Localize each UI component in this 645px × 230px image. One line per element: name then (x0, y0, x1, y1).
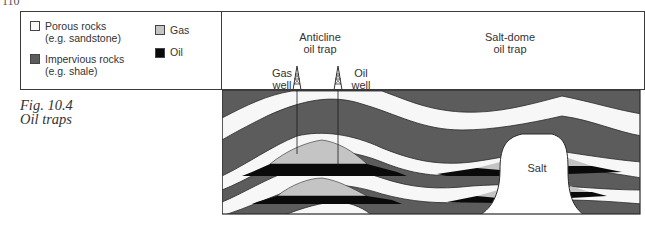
legend-label-impervious: Impervious rocks (e.g. shale) (45, 53, 124, 77)
legend-swatch-oil (155, 48, 165, 58)
oil-well-label: Oil well (343, 67, 379, 91)
oil-well-derrick-icon (333, 66, 343, 90)
gas-well-derrick-icon (292, 66, 302, 90)
anticline-label: Anticline oil trap (280, 31, 360, 55)
legend-swatch-porous (30, 21, 40, 31)
figure-title: Oil traps (20, 112, 73, 126)
saltdome-label: Salt-dome oil trap (465, 31, 555, 55)
legend-swatch-impervious (30, 54, 40, 64)
legend-label-porous: Porous rocks (e.g. sandstone) (45, 20, 121, 44)
salt-label: Salt (517, 162, 557, 174)
page-number: 110 (2, 0, 20, 9)
legend: Porous rocks (e.g. sandstone) Impervious… (20, 11, 222, 90)
legend-label-gas: Gas (170, 24, 189, 36)
figure-caption: Fig. 10.4 Oil traps (20, 98, 73, 126)
geological-cross-section (222, 90, 642, 216)
legend-label-oil: Oil (170, 46, 183, 58)
legend-swatch-gas (155, 25, 165, 35)
figure-number: Fig. 10.4 (20, 98, 73, 112)
